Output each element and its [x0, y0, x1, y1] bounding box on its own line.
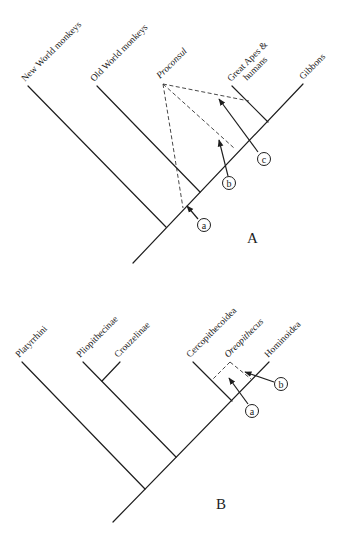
branch-great-apes [232, 86, 268, 122]
taxon-new-world-monkeys: New World monkeys [19, 19, 83, 83]
panel-b: a b Platyrrhini Pliopithecinae Crouzelin… [13, 305, 303, 522]
svg-text:b: b [279, 379, 284, 390]
svg-text:a: a [250, 406, 255, 417]
main-stem-a [133, 84, 303, 263]
cladogram-figure: a b c New World monkeys Old World monkey… [0, 0, 347, 534]
branch-old-world-monkeys [97, 86, 200, 192]
branch-pliopithecinae [83, 362, 176, 457]
svg-text:c: c [262, 154, 267, 165]
proconsul-dashed-links [163, 84, 249, 208]
marker-a-panel-a: a [187, 206, 211, 232]
branch-cercopithecoidea [193, 362, 232, 401]
taxon-oreopithecus: Oreopithecus [222, 316, 265, 359]
taxon-gibbons: Gibbons [297, 51, 327, 81]
marker-c-panel-a: c [219, 99, 271, 166]
main-stem-b [113, 362, 269, 522]
taxon-crouzelinae: Crouzelinae [112, 320, 152, 360]
taxon-hominoidea: Hominoidea [262, 319, 303, 360]
panel-label-a: A [247, 230, 258, 246]
panel-label-b: B [216, 496, 226, 512]
taxon-proconsul: Proconsul [154, 46, 189, 81]
taxon-platyrrhini: Platyrrhini [13, 323, 49, 359]
branch-crouzelinae [102, 362, 120, 381]
panel-a: a b c New World monkeys Old World monkey… [19, 19, 327, 263]
branch-platyrrhini [22, 362, 145, 489]
marker-b-panel-b: b [245, 372, 288, 391]
svg-text:a: a [202, 220, 207, 231]
taxon-old-world-monkeys: Old World monkeys [88, 22, 149, 83]
oreopithecus-dashed-links [212, 362, 251, 380]
branch-new-world-monkeys [28, 86, 166, 227]
svg-text:b: b [227, 178, 232, 189]
